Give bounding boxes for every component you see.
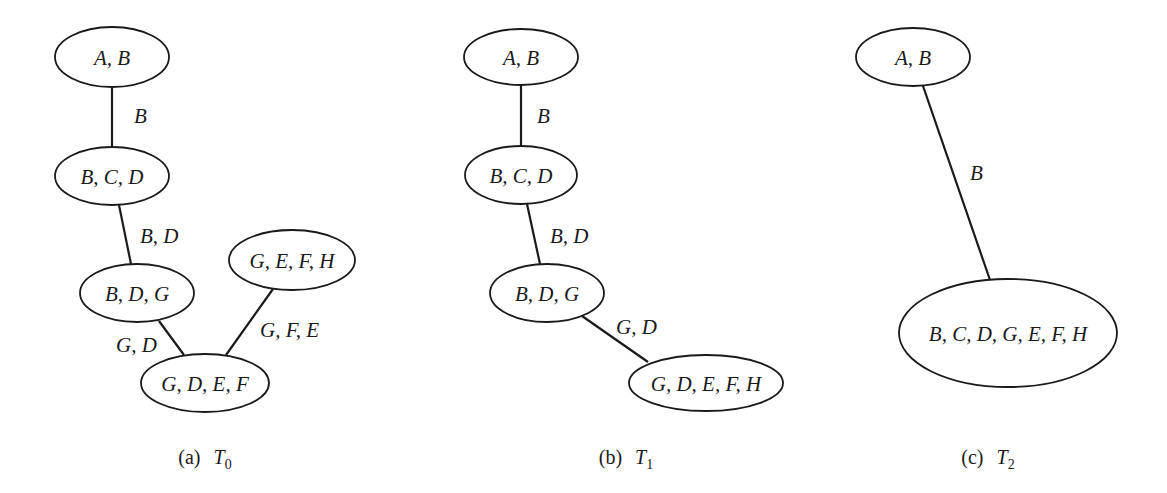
edge-label-b: B [537, 104, 550, 128]
panel-t0: A, B B, C, D B, D, G G, E, F, H G, D, E,… [55, 27, 355, 472]
edge-label-gfe: G, F, E [260, 318, 319, 342]
caption-subscript: 0 [225, 457, 232, 472]
edge-label-bd: B, D [140, 224, 179, 248]
node-label-ab: A, B [92, 46, 130, 70]
node-label-gdef: G, D, E, F [161, 372, 249, 396]
edge-label-gd: G, D [116, 333, 157, 357]
node-label-bdg: B, D, G [105, 282, 169, 306]
caption-t2: (c) T2 [961, 446, 1014, 472]
edge-label-b: B [970, 161, 983, 185]
edge-bdg-gdef [159, 321, 184, 355]
edge-label-bd: B, D [550, 224, 589, 248]
caption-t1: (b) T1 [599, 446, 653, 472]
node-label-ab: A, B [893, 46, 931, 70]
panel-t2: A, B B, C, D, G, E, F, H B (c) T2 [856, 28, 1117, 472]
edge-bcd-bdg [119, 205, 131, 264]
nodes [464, 29, 783, 411]
caption-t0: (a) T0 [178, 446, 231, 472]
panel-t1: A, B B, C, D B, D, G G, D, E, F, H B B, … [464, 29, 783, 472]
edge-label-gd: G, D [616, 315, 657, 339]
caption-subscript: 2 [1008, 457, 1015, 472]
diagram-canvas: A, B B, C, D B, D, G G, E, F, H G, D, E,… [0, 0, 1167, 493]
node-label-bcd: B, C, D [490, 164, 553, 188]
caption-prefix: (b) [599, 446, 622, 469]
node-label-bcd: B, C, D [81, 165, 144, 189]
node-label-bdg: B, D, G [515, 282, 579, 306]
edge-labels: B [970, 161, 983, 185]
edge-bcd-bdg [527, 204, 540, 264]
node-label-gdefh: G, D, E, F, H [651, 372, 763, 396]
nodes [55, 27, 355, 412]
edge-label-b: B [134, 104, 147, 128]
node-label-bcdgefh: B, C, D, G, E, F, H [929, 322, 1089, 346]
node-label-ab: A, B [501, 46, 539, 70]
node-label-gefh: G, E, F, H [250, 249, 337, 273]
caption-prefix: (a) [178, 446, 200, 469]
caption-subscript: 1 [646, 457, 653, 472]
caption-prefix: (c) [961, 446, 983, 469]
